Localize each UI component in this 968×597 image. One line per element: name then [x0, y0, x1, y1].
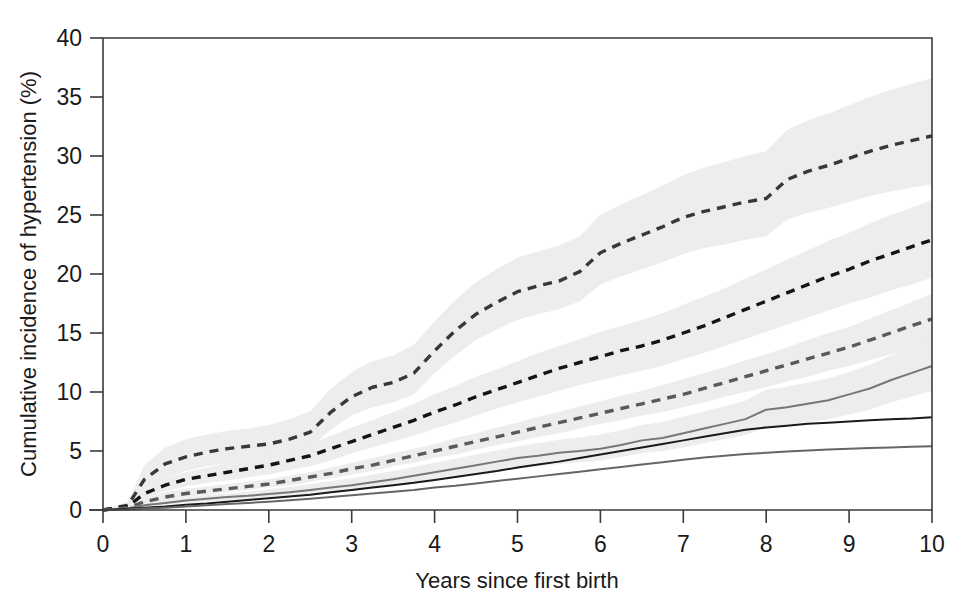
- confidence-bands: [103, 78, 932, 510]
- x-tick-label: 0: [97, 531, 110, 557]
- y-axis-tick-labels: 0510152025303540: [56, 25, 82, 523]
- x-tick-label: 4: [428, 531, 441, 557]
- y-axis-title: Cumulative incidence of hypertension (%): [16, 71, 41, 477]
- y-axis-ticks: [90, 38, 103, 510]
- y-tick-label: 35: [56, 84, 82, 110]
- x-axis-title: Years since first birth: [415, 568, 618, 593]
- cumulative-incidence-chart: 0510152025303540 012345678910 Cumulative…: [0, 0, 968, 597]
- y-tick-label: 20: [56, 261, 82, 287]
- y-tick-label: 15: [56, 320, 82, 346]
- y-tick-label: 40: [56, 25, 82, 51]
- y-tick-label: 25: [56, 202, 82, 228]
- y-tick-label: 5: [69, 438, 82, 464]
- x-tick-label: 6: [594, 531, 607, 557]
- y-tick-label: 30: [56, 143, 82, 169]
- x-tick-label: 3: [345, 531, 358, 557]
- x-tick-label: 7: [677, 531, 690, 557]
- x-tick-label: 2: [262, 531, 275, 557]
- y-tick-label: 0: [69, 497, 82, 523]
- x-axis-tick-labels: 012345678910: [97, 531, 945, 557]
- x-tick-label: 9: [843, 531, 856, 557]
- chart-container: 0510152025303540 012345678910 Cumulative…: [0, 0, 968, 597]
- x-axis-ticks: [103, 510, 932, 523]
- x-tick-label: 10: [919, 531, 945, 557]
- x-tick-label: 5: [511, 531, 524, 557]
- x-tick-label: 8: [760, 531, 773, 557]
- y-tick-label: 10: [56, 379, 82, 405]
- x-tick-label: 1: [180, 531, 193, 557]
